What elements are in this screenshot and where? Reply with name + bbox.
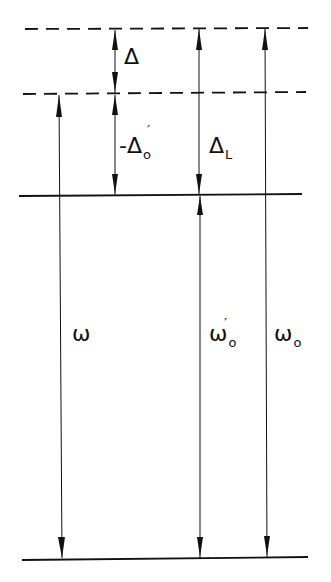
neg-delta-symbol: -Δ (119, 133, 142, 158)
delta-arrow (112, 30, 118, 93)
prime-mark: ′ (147, 123, 150, 137)
prime-mark: ′ (224, 316, 227, 330)
subscript-o: o (228, 335, 236, 350)
middle-dashed-level (23, 92, 306, 94)
neg-delta-prime-arrow (112, 95, 118, 195)
omega-0-label: ωo (274, 323, 301, 345)
delta-L-arrow (196, 29, 202, 194)
omega-symbol: ω (274, 321, 292, 346)
omega-arrow (56, 95, 65, 558)
ground-solid-level (22, 557, 308, 560)
omega-label: ω (72, 323, 90, 345)
omega-symbol: ω (72, 321, 90, 346)
delta-symbol: Δ (124, 44, 139, 69)
omega-prime-0-label: ω′o (209, 323, 236, 345)
omega-prime-arrow (197, 196, 203, 558)
subscript-o: o (143, 147, 151, 162)
frequency-level-diagram (0, 0, 331, 582)
omega-0-arrow (262, 29, 270, 557)
middle-solid-level (19, 194, 302, 196)
subscript-o: o (293, 335, 301, 350)
delta-L-label: ΔL (209, 135, 232, 157)
delta-symbol: Δ (209, 133, 224, 158)
delta-label: Δ (124, 46, 139, 68)
subscript-L: L (225, 147, 232, 162)
neg-delta-prime-0-label: -Δ′o (119, 135, 151, 157)
upper-dashed-level (25, 28, 308, 29)
